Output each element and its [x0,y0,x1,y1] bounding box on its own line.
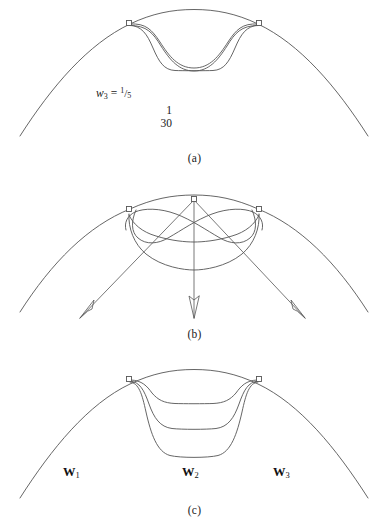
panel-b: W1 W2 W3 [0,176,389,352]
annotation-panel-a: w3=1/5 1 30 [96,84,172,131]
panel-b-plot [0,176,389,352]
arrowhead-w1 [80,300,94,318]
notch-curve-c-3 [130,382,258,457]
notch-curve-a-3 [129,25,259,71]
figure-container: w3=1/5 1 30 (a) [0,0,389,528]
marker-square-b-right [257,207,262,212]
marker-square-a-left [127,21,132,26]
notch-curve-b-1 [132,209,262,243]
leader-line-w3 [194,200,305,318]
notch-curve-c-1 [131,380,257,404]
caption-panel-a: (a) [0,152,389,164]
annot-a-equals: = [108,87,121,99]
panel-a-plot [0,0,389,176]
base-arc-a [20,10,368,137]
base-arc-c [20,370,368,499]
leader-line-w1 [80,200,194,318]
marker-square-b-apex [192,197,197,202]
marker-square-c-left [127,377,132,382]
annot-a-value-3: 30 [96,117,172,131]
marker-square-a-right [257,21,262,26]
caption-panel-b: (b) [0,328,389,340]
panel-c-plot [0,352,389,528]
notch-curve-b-2 [125,209,255,243]
arrowhead-w3 [291,300,305,318]
notch-curve-c-2 [130,381,258,429]
annot-a-value-2: 1 [96,104,172,118]
marker-square-b-left [127,207,132,212]
caption-panel-c: (c) [0,504,389,516]
marker-square-c-right [257,377,262,382]
panel-a: w3=1/5 1 30 [0,0,389,176]
panel-c: d=0.05 0.10 0.15 [0,352,389,528]
notch-curve-a-2 [130,26,258,72]
annot-a-fraction: 1/5 [120,84,131,103]
annot-a-variable: w [96,87,104,99]
notch-curve-a-1 [130,24,258,68]
annot-a-denominator: 5 [127,91,131,100]
